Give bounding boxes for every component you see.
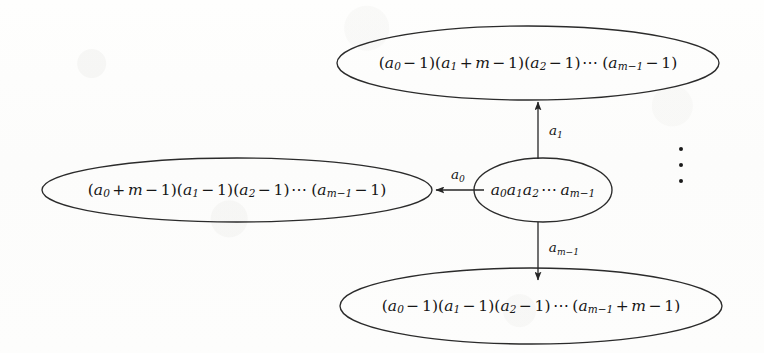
edge-am1-label: am−1 [549,239,579,257]
ellipsis-dot [679,147,683,151]
edge-a0-label: a0 [451,166,465,184]
top-node-label: (a0−1)(a1+m−1)(a2−1)⋯(am−1−1) [379,54,678,73]
center-node-label: a0a1a2⋯am−1 [491,181,596,200]
bottom-node-label: (a0−1)(a1−1)(a2−1)⋯(am−1+m−1) [382,297,681,316]
figure-canvas: (a0−1)(a1+m−1)(a2−1)⋯(am−1−1) (a0+m−1)(a… [0,0,764,353]
edge-a1-label: a1 [549,122,563,140]
vertical-ellipsis [679,147,683,183]
ellipsis-dot [679,179,683,183]
ellipsis-dot [679,163,683,167]
left-node-label: (a0+m−1)(a1−1)(a2−1)⋯(am−1−1) [88,181,387,200]
